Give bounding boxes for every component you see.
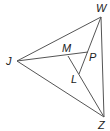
diagram-canvas: W J Z M P L xyxy=(0,0,110,131)
label-l: L xyxy=(71,73,77,85)
label-j: J xyxy=(5,55,12,67)
segment-jp xyxy=(17,52,88,61)
triangle-diagram: W J Z M P L xyxy=(0,0,110,131)
label-z: Z xyxy=(97,119,106,131)
segment-wl xyxy=(79,17,101,74)
segment-wz xyxy=(101,17,104,117)
label-m: M xyxy=(62,42,72,54)
label-w: W xyxy=(96,2,108,14)
segment-jz xyxy=(17,61,104,117)
label-p: P xyxy=(89,51,97,63)
segment-mz xyxy=(68,56,104,117)
